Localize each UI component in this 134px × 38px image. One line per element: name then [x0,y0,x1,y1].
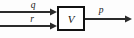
signal-label-q: q [31,0,36,10]
signal-label-r: r [30,14,34,24]
diagram-canvas: q r V p [0,0,134,38]
arrowhead-icon-q [50,9,57,16]
block-diagram: q r V p [0,0,134,38]
output-signal-p: p [85,5,132,22]
arrowhead-icon-p [125,16,132,23]
input-signal-r: r [0,14,57,29]
block-v: V [58,7,84,30]
signal-label-p: p [98,5,104,15]
input-signal-q: q [0,0,57,15]
arrowhead-icon-r [50,23,57,30]
